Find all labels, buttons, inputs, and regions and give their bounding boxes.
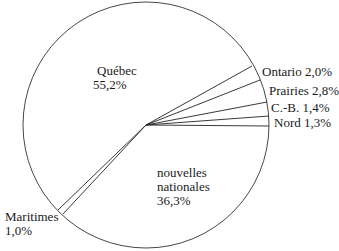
label-quebec-name: Québec [97,64,137,78]
label-maritimes-name: Maritimes [5,210,58,224]
label-cb: C.-B. 1,4% [271,101,330,115]
label-maritimes-pct: 1,0% [5,224,32,238]
label-nn-pct: 36,3% [157,194,191,208]
label-quebec-pct: 55,2% [93,78,127,92]
label-prairies: Prairies 2,8% [269,84,339,98]
label-ontario: Ontario 2,0% [262,65,332,79]
label-nn-line1: nouvelles [157,166,207,180]
label-nn-line2: nationales [157,180,210,194]
label-nord: Nord 1,3% [274,116,331,130]
